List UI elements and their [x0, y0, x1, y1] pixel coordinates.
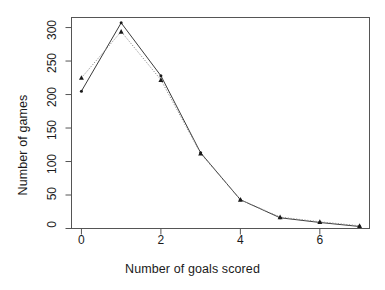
x-tick-label: 4 [225, 232, 255, 248]
data-point-marker [120, 21, 123, 24]
y-tick-label-text: 300 [45, 20, 59, 80]
y-tick-label: 300 [0, 21, 60, 35]
plot-box [72, 18, 370, 229]
x-tick-label: 6 [305, 232, 335, 248]
series-line-observed [81, 23, 359, 227]
data-point-marker [79, 75, 84, 80]
x-tick-label: 0 [66, 232, 96, 248]
data-point-marker [119, 29, 124, 34]
x-tick-label: 2 [146, 232, 176, 248]
data-series-layer [79, 21, 362, 228]
data-point-marker [198, 151, 203, 156]
y-axis-ticks [66, 28, 72, 229]
x-axis-ticks [81, 229, 319, 235]
y-axis-title: Number of games [12, 0, 34, 290]
data-point-marker [159, 74, 162, 77]
chart-figure: Number of goals scored Number of games 0… [0, 0, 385, 290]
data-point-marker [80, 90, 83, 93]
series-line-fitted [81, 32, 359, 226]
